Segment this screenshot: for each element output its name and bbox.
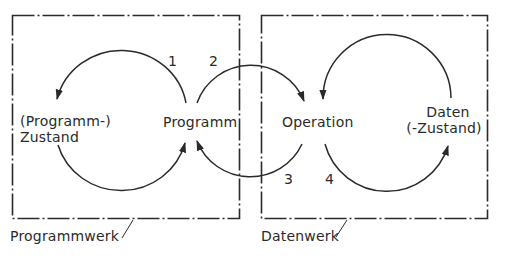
node-daten-zustand-line1: Daten (400, 104, 488, 120)
arrow-4-operation-to-daten (325, 144, 448, 191)
node-programm-zustand-line1: (Programm-) (20, 113, 100, 129)
step-label-2: 2 (209, 53, 218, 69)
arrow-2-programm-to-operation (197, 65, 304, 103)
arrow-daten-to-operation (323, 34, 451, 99)
datenwerk-label: Datenwerk (261, 228, 339, 244)
node-operation: Operation (282, 114, 353, 130)
step-label-3: 3 (284, 171, 293, 187)
programmwerk-label: Programmwerk (10, 228, 119, 244)
node-programm-zustand: (Programm-) Zustand (20, 113, 100, 145)
node-daten-zustand: Daten (-Zustand) (400, 104, 488, 136)
arrow-zustand-to-programm (58, 143, 185, 191)
node-programm: Programm (163, 114, 237, 130)
node-programm-zustand-line2: Zustand (20, 129, 100, 145)
step-label-4: 4 (325, 171, 334, 187)
programmwerk-leader (122, 220, 133, 238)
step-label-1: 1 (168, 53, 177, 69)
arrow-1-programm-to-zustand (57, 50, 186, 103)
node-daten-zustand-line2: (-Zustand) (400, 120, 488, 136)
